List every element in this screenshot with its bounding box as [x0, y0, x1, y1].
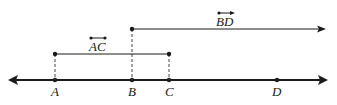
point-d-dot [275, 78, 279, 82]
point-a-label: A [50, 84, 59, 99]
point-b-label: B [128, 84, 136, 99]
point-d-label: D [271, 84, 282, 99]
line-diagram: AC BD A B C D [0, 0, 337, 105]
point-c-label: C [165, 84, 174, 99]
segment-ac-label: AC [88, 39, 106, 54]
segment-ac [53, 52, 171, 56]
diagram-canvas: AC BD A B C D [0, 0, 337, 105]
ray-bd-label: BD [216, 14, 234, 29]
